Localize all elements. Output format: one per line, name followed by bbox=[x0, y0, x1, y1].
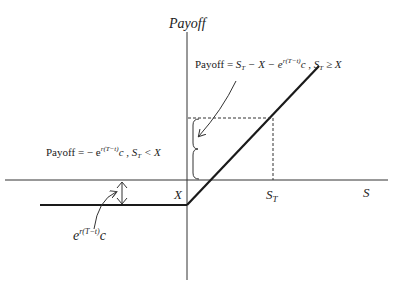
y-axis-label: Payoff bbox=[168, 16, 208, 31]
lower-payoff-formula: Payoff = − er(T−t)c , ST < X bbox=[46, 145, 162, 160]
upper-cond: ≥ X bbox=[323, 58, 343, 70]
lower-exp: r(T−t) bbox=[101, 145, 120, 153]
spot-at-expiry-label: ST bbox=[266, 187, 279, 204]
upper-mid: − X − e bbox=[245, 58, 283, 70]
spot-at-expiry-subscript: T bbox=[273, 194, 279, 204]
upper-formula-pointer-arrow bbox=[199, 81, 236, 136]
payoff-brace bbox=[193, 119, 199, 179]
payoff-diagram: Payoff S X ST Payoff = ST − X − er(T−t)c… bbox=[0, 0, 394, 291]
lower-cond: < X bbox=[141, 146, 162, 158]
x-axis-label: S bbox=[363, 185, 370, 200]
strike-label: X bbox=[173, 187, 183, 202]
premium-pointer-arrow bbox=[94, 192, 116, 229]
upper-payoff-formula: Payoff = ST − X − er(T−t)c , ST ≥ X bbox=[195, 57, 343, 72]
premium-c: c bbox=[100, 228, 107, 243]
payoff-rising-segment bbox=[187, 66, 319, 205]
upper-prefix: Payoff = bbox=[195, 58, 236, 70]
upper-sep: , bbox=[306, 58, 314, 70]
upper-exp: r(T−t) bbox=[283, 57, 302, 65]
lower-prefix: Payoff = − e bbox=[46, 146, 101, 158]
lower-sep: , bbox=[124, 146, 132, 158]
premium-exp: r(T−t) bbox=[79, 227, 100, 236]
premium-label: er(T−t)c bbox=[73, 227, 107, 243]
